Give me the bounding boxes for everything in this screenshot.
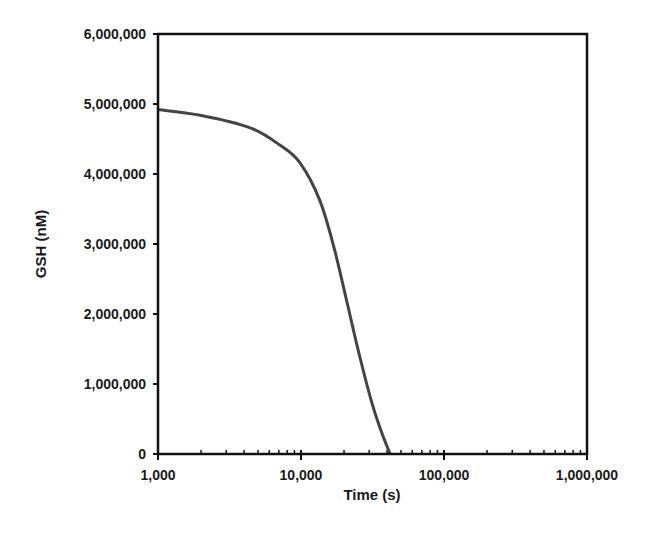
y-axis-title: GSH (nM)	[32, 210, 49, 278]
y-axis-ticks: 01,000,0002,000,0003,000,0004,000,0005,0…	[84, 26, 158, 462]
x-tick-label: 1,000,000	[556, 467, 618, 483]
plot-frame	[158, 34, 587, 454]
x-axis-title: Time (s)	[343, 486, 400, 503]
y-tick-label: 5,000,000	[84, 96, 146, 112]
x-tick-label: 100,000	[419, 467, 470, 483]
y-tick-label: 1,000,000	[84, 376, 146, 392]
x-tick-label: 10,000	[280, 467, 323, 483]
y-tick-label: 4,000,000	[84, 166, 146, 182]
y-tick-label: 0	[138, 446, 146, 462]
chart: 01,000,0002,000,0003,000,0004,000,0005,0…	[0, 0, 657, 538]
x-tick-label: 1,000	[140, 467, 175, 483]
gsh-series-line	[158, 110, 390, 454]
y-tick-label: 6,000,000	[84, 26, 146, 42]
y-tick-label: 3,000,000	[84, 236, 146, 252]
y-tick-label: 2,000,000	[84, 306, 146, 322]
